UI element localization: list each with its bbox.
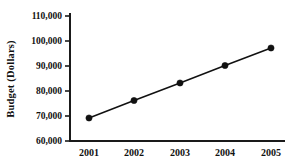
y-tick-label-80000: 80,000 <box>36 86 62 96</box>
x-tick-label-2004: 2004 <box>215 147 235 158</box>
data-point-2002 <box>131 97 137 103</box>
data-point-2004 <box>222 62 228 68</box>
y-tick-label-60000: 60,000 <box>36 136 62 146</box>
data-point-2003 <box>177 80 183 86</box>
data-point-2001 <box>86 115 92 121</box>
budget-line-chart: Budget (Dollars) 110,000 100,000 90,000 … <box>0 0 295 165</box>
x-tick-label-2003: 2003 <box>170 147 190 158</box>
y-tick-label-90000: 90,000 <box>36 61 62 71</box>
x-tick-label-2002: 2002 <box>124 147 144 158</box>
x-tick-label-2001: 2001 <box>79 147 99 158</box>
y-tick-label-110000: 110,000 <box>32 11 63 21</box>
y-axis-title: Budget (Dollars) <box>5 40 17 118</box>
data-point-2005 <box>268 45 274 51</box>
chart-canvas: Budget (Dollars) 110,000 100,000 90,000 … <box>0 0 295 165</box>
y-tick-label-100000: 100,000 <box>31 36 62 46</box>
x-tick-label-2005: 2005 <box>261 147 281 158</box>
y-tick-label-70000: 70,000 <box>36 111 62 121</box>
